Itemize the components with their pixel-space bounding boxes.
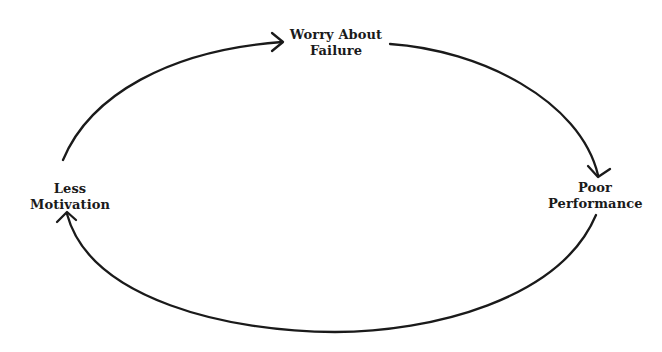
node-label-line: Poor (548, 180, 642, 196)
cycle-diagram: Worry About Failure Poor Performance Les… (0, 0, 662, 352)
node-worry-about-failure: Worry About Failure (278, 27, 394, 59)
node-label-line: Motivation (20, 197, 120, 213)
edge-poor-to-less (57, 212, 596, 332)
edge-less-to-worry (63, 33, 283, 160)
node-poor-performance: Poor Performance (548, 180, 642, 212)
node-label-line: Less (20, 181, 120, 197)
arrowhead-icon (57, 212, 76, 222)
node-less-motivation: Less Motivation (20, 181, 120, 213)
arrowhead-icon (588, 166, 610, 177)
edge-worry-to-poor (390, 44, 610, 177)
node-label-line: Failure (278, 43, 394, 59)
node-label-line: Performance (548, 196, 642, 212)
node-label-line: Worry About (278, 27, 394, 43)
